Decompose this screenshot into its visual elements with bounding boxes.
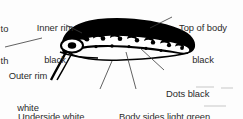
caterpillar-figure: to th Inner rim black Top of body black … [0, 0, 243, 119]
label-body-sides: Body sides light green [119, 91, 239, 119]
label-top-of-body-line-1: Top of body [167, 23, 239, 34]
label-body-sides-line-1: Body sides light green [119, 112, 239, 119]
label-outer-rim-line-1: Outer rim [0, 71, 56, 82]
label-top-of-body-line-2: black [167, 55, 239, 66]
label-underside-white: Underside white [18, 91, 104, 119]
leader-body-sides [126, 52, 136, 89]
label-underside-white-line-1: Underside white [18, 112, 104, 119]
label-inner-rim-line-1: Inner rim [26, 23, 84, 34]
leader-underside [100, 61, 112, 89]
clipped-text-line-1: to [0, 24, 8, 35]
